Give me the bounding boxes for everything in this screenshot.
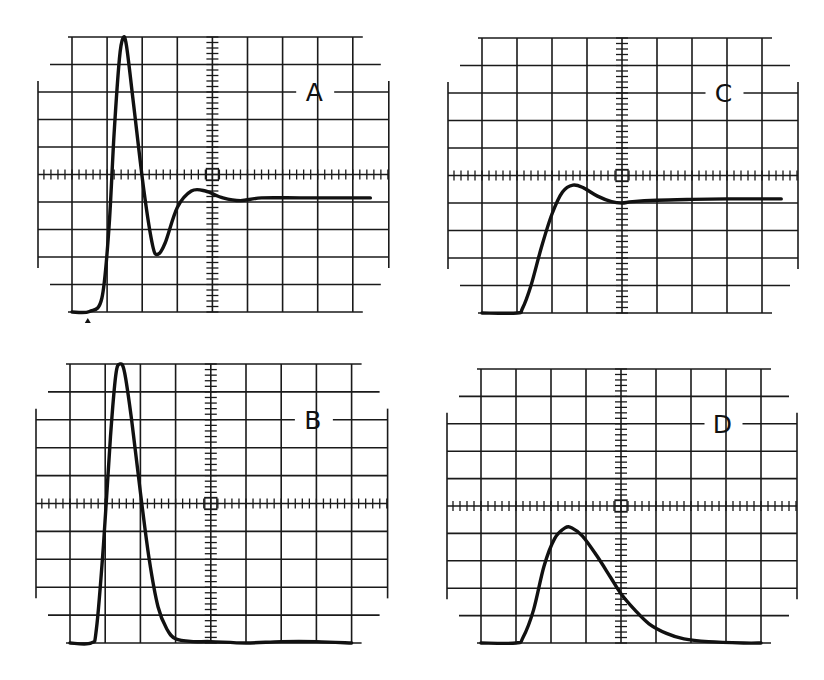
panel-label: B	[304, 406, 321, 435]
oscilloscope-figure: A C B D	[0, 0, 824, 680]
trigger-marker-icon	[85, 318, 91, 323]
signal-trace	[482, 185, 781, 313]
panel-b: B	[36, 364, 388, 644]
panel-c: C	[448, 38, 798, 313]
panel-a: A	[38, 37, 389, 323]
panel-label: D	[713, 410, 732, 439]
panel-label: A	[306, 78, 323, 107]
panel-label: C	[715, 79, 732, 108]
panel-d: D	[447, 369, 797, 643]
